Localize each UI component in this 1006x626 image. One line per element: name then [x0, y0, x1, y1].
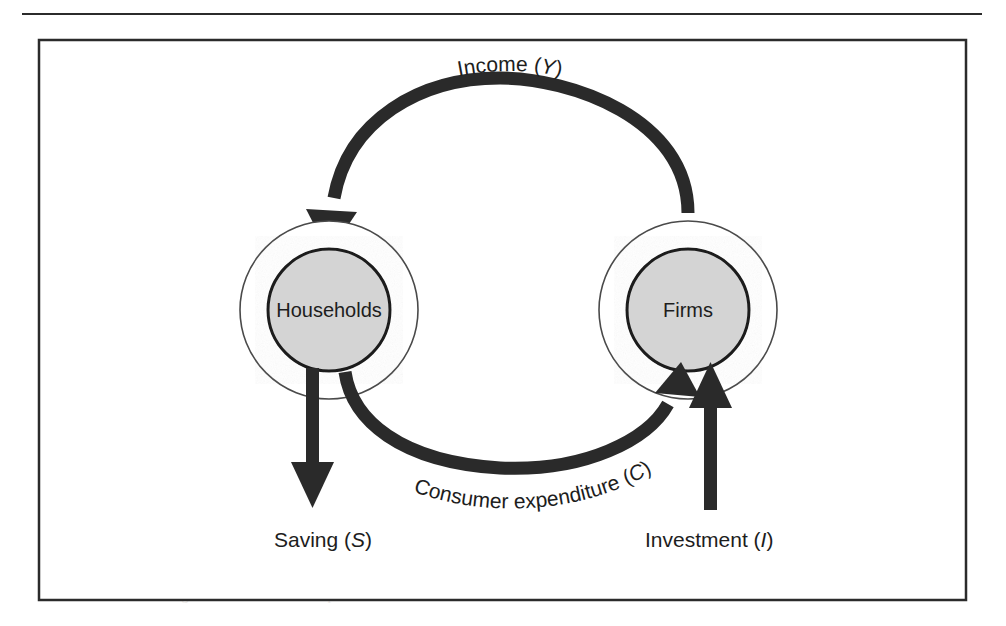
figure-root: and the accompanying text the circular f…	[0, 0, 1006, 626]
investment-label-text: Investment	[645, 528, 748, 551]
node-households[interactable]: Households	[240, 221, 418, 399]
households-label: Households	[276, 299, 382, 321]
firms-label: Firms	[663, 299, 713, 321]
saving-flow-label: Saving (S)	[274, 528, 372, 551]
saving-label-symbol: S	[351, 528, 365, 551]
saving-label-text: Saving	[274, 528, 338, 551]
figure-frame	[39, 40, 966, 600]
node-firms[interactable]: Firms	[599, 221, 777, 399]
circular-flow-diagram: Households Firms Income (Y)	[0, 0, 1006, 626]
investment-flow-label: Investment (I)	[645, 528, 773, 551]
investment-arrow-shaft	[704, 400, 717, 510]
